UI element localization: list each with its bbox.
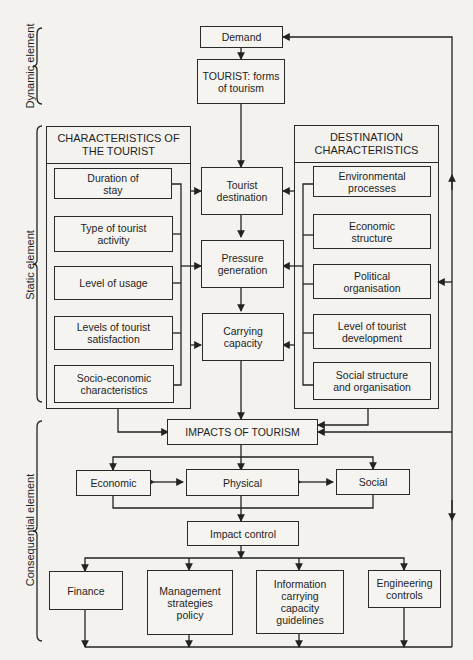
destination-item-environmental: Environmental processes bbox=[313, 166, 431, 197]
consequential-element-label: Consequential element bbox=[24, 460, 36, 600]
tourist-destination-box: Tourist destination bbox=[201, 167, 283, 215]
finance-box: Finance bbox=[49, 571, 123, 610]
physical-impact-box: Physical bbox=[186, 469, 299, 496]
impacts-of-tourism-box: IMPACTS OF TOURISM bbox=[167, 419, 318, 445]
static-element-label: Static element bbox=[24, 210, 36, 320]
tourist-item-satisfaction: Levels of tourist satisfaction bbox=[54, 316, 173, 350]
pressure-generation-box: Pressure generation bbox=[201, 240, 284, 288]
management-box: Management strategies policy bbox=[147, 570, 233, 635]
destination-characteristics-title: DESTINATION CHARACTERISTICS bbox=[295, 126, 438, 163]
destination-item-social: Social structure and organisation bbox=[313, 362, 431, 400]
dynamic-element-label: Dynamic element bbox=[24, 11, 36, 121]
information-box: Information carrying capacity guidelines bbox=[256, 570, 344, 634]
social-impact-box: Social bbox=[336, 469, 410, 495]
economic-impact-box: Economic bbox=[76, 470, 151, 496]
tourist-forms-box: TOURIST: forms of tourism bbox=[197, 59, 285, 104]
destination-item-political: Political organisation bbox=[313, 264, 431, 299]
tourist-characteristics-title: CHARACTERISTICS OF THE TOURIST bbox=[47, 127, 190, 164]
tourist-item-duration: Duration of stay bbox=[54, 168, 172, 199]
impact-control-box: Impact control bbox=[187, 521, 299, 546]
tourist-item-usage: Level of usage bbox=[54, 266, 173, 300]
demand-box: Demand bbox=[200, 26, 283, 48]
tourist-item-socioeconomic: Socio-economic characteristics bbox=[54, 365, 174, 403]
tourist-item-activity: Type of tourist activity bbox=[54, 216, 173, 252]
destination-item-economic: Economic structure bbox=[313, 214, 431, 249]
destination-item-development: Level of tourist development bbox=[313, 314, 431, 349]
carrying-capacity-box: Carrying capacity bbox=[202, 313, 284, 361]
engineering-box: Engineering controls bbox=[368, 570, 441, 608]
